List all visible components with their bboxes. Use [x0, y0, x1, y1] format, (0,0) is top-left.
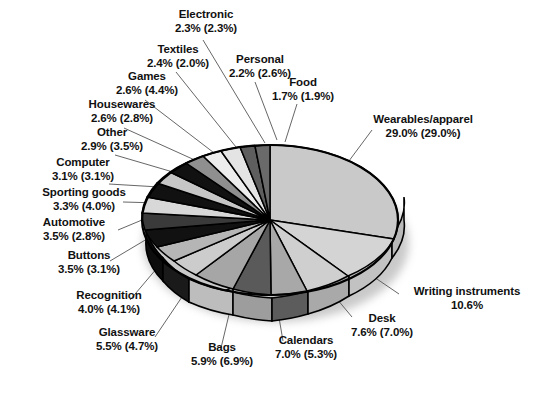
- label-electronic: Electronic 2.3% (2.3%): [146, 8, 266, 35]
- label-writing-instruments-value: 10.6%: [402, 299, 532, 313]
- label-buttons-name: Buttons: [28, 249, 150, 263]
- label-sporting-goods: Sporting goods 3.3% (4.0%): [16, 186, 152, 213]
- label-calendars-value: 7.0% (5.3%): [245, 348, 367, 362]
- label-recognition-name: Recognition: [44, 289, 174, 303]
- label-buttons-value: 3.5% (3.1%): [28, 263, 150, 277]
- label-food-value: 1.7% (1.9%): [244, 90, 362, 104]
- label-games: Games 2.6% (4.4%): [88, 70, 206, 97]
- label-personal-name: Personal: [200, 53, 320, 67]
- label-housewares: Housewares 2.6% (2.8%): [60, 98, 184, 125]
- label-sporting-goods-name: Sporting goods: [16, 186, 152, 200]
- label-other-value: 2.9% (3.5%): [52, 140, 172, 154]
- label-sporting-goods-value: 3.3% (4.0%): [16, 200, 152, 214]
- label-automotive-name: Automotive: [12, 216, 136, 230]
- label-desk-value: 7.6% (7.0%): [323, 326, 441, 340]
- label-other: Other 2.9% (3.5%): [52, 126, 172, 153]
- leader-line-food: [285, 104, 297, 142]
- label-glassware-name: Glassware: [64, 326, 190, 340]
- label-other-name: Other: [52, 126, 172, 140]
- label-automotive-value: 3.5% (2.8%): [12, 230, 136, 244]
- label-wearables-apparel-value: 29.0% (29.0%): [348, 127, 498, 141]
- label-writing-instruments-name: Writing instruments: [402, 285, 532, 299]
- label-computer-value: 3.1% (3.1%): [22, 170, 144, 184]
- pie-chart-figure: Electronic 2.3% (2.3%) Textiles 2.4% (2.…: [0, 0, 533, 397]
- label-food: Food 1.7% (1.9%): [244, 76, 362, 103]
- label-electronic-name: Electronic: [146, 8, 266, 22]
- label-recognition-value: 4.0% (4.1%): [44, 303, 174, 317]
- label-housewares-value: 2.6% (2.8%): [60, 112, 184, 126]
- label-games-name: Games: [88, 70, 206, 84]
- label-food-name: Food: [244, 76, 362, 90]
- label-computer-name: Computer: [22, 156, 144, 170]
- label-writing-instruments: Writing instruments 10.6%: [402, 285, 532, 312]
- label-recognition: Recognition 4.0% (4.1%): [44, 289, 174, 316]
- label-buttons: Buttons 3.5% (3.1%): [28, 249, 150, 276]
- label-desk: Desk 7.6% (7.0%): [323, 312, 441, 339]
- label-electronic-value: 2.3% (2.3%): [146, 22, 266, 36]
- label-wearables-apparel: Wearables/apparel 29.0% (29.0%): [348, 113, 498, 140]
- label-wearables-apparel-name: Wearables/apparel: [348, 113, 498, 127]
- label-desk-name: Desk: [323, 312, 441, 326]
- label-games-value: 2.6% (4.4%): [88, 84, 206, 98]
- label-automotive: Automotive 3.5% (2.8%): [12, 216, 136, 243]
- label-computer: Computer 3.1% (3.1%): [22, 156, 144, 183]
- label-housewares-name: Housewares: [60, 98, 184, 112]
